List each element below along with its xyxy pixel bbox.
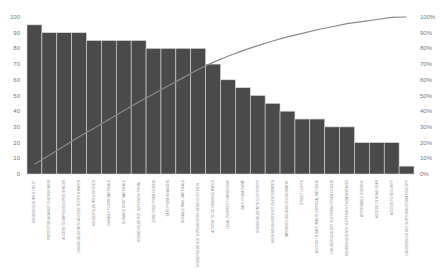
bar xyxy=(295,119,310,174)
y2-tick-label: 40% xyxy=(420,108,433,114)
x-tick-label: ACCESS TO IMPROVED OPEN SPACES xyxy=(62,180,66,240)
y2-tick-label: 10% xyxy=(420,155,433,161)
x-tick-label: ACCESS TO ROAD NEAR xyxy=(375,179,379,218)
x-tick-label: PROTECTION AGAINST CHICKUN WIND xyxy=(47,179,51,240)
x-tick-label: DURABLE FLOOR MATERIALS xyxy=(107,180,111,226)
bar xyxy=(27,25,42,174)
x-tick-label: ACCESS TO SECURITY xyxy=(390,179,394,215)
bar xyxy=(310,119,325,174)
bar xyxy=(131,41,146,174)
y2-tick-label: 70% xyxy=(420,61,433,67)
x-tick-label: HOUSEHOLDS WITH ELECTRICITY xyxy=(256,179,260,233)
y2-tick-label: 50% xyxy=(420,93,433,99)
x-tick-label: HOUSEHOLDS WITH KITCHEN xyxy=(92,179,96,226)
x-tick-label: DURABLE ROOF MATERIALS xyxy=(122,180,126,224)
x-tick-label: DURABLE WALL MATERIALS xyxy=(181,180,185,223)
x-tick-label: HOUSEHOLDS NOT EXPERIENCING BEING EVICTE… xyxy=(196,180,200,267)
y-tick-label: 70 xyxy=(13,61,20,67)
x-tick-label: HOUSEHOLDS NOT SUFFERING FROM DISEASES xyxy=(345,180,349,256)
x-tick-label: AFFORDABLE HOUSING xyxy=(360,179,364,217)
y2-tick-label: 100% xyxy=(420,14,436,20)
x-tick-label: SAFE FROM CRIME xyxy=(241,180,245,210)
pareto-chart: 0102030405060708090100 0%10%20%30%40%50%… xyxy=(0,0,445,271)
y-tick-label: 40 xyxy=(13,108,20,114)
y-axis-right: 0%10%20%30%40%50%60%70%80%90%100% xyxy=(420,14,436,177)
bar xyxy=(340,127,355,174)
bar xyxy=(235,88,250,174)
y-tick-label: 90 xyxy=(13,30,20,36)
y2-tick-label: 30% xyxy=(420,124,433,130)
x-axis-labels: HOUSEHOLDS WITH TOILETPROTECTION AGAINST… xyxy=(32,179,408,267)
bar xyxy=(354,143,369,174)
x-tick-label: ZONE FREE FROM FLOODS xyxy=(152,180,156,223)
y-tick-label: 30 xyxy=(13,124,20,130)
y2-tick-label: 80% xyxy=(420,45,433,51)
x-tick-label: ACCESS TO OIL DRINKING WATER xyxy=(211,179,215,232)
bar xyxy=(101,41,116,174)
x-tick-label: HOUSEHOLDS NOT SUFFERING FROM FLOODS xyxy=(330,180,334,253)
bar xyxy=(87,41,102,174)
bar xyxy=(325,127,340,174)
bar xyxy=(206,64,221,174)
y2-tick-label: 60% xyxy=(420,77,433,83)
y-tick-label: 50 xyxy=(13,93,20,99)
bar xyxy=(161,48,176,174)
x-tick-label: HOUSEHOLDS NOT SUFFERING FROM POVERTY xyxy=(405,179,409,255)
x-tick-label: ACCESS TO SAFE WASTE DISPOSAL METHODS xyxy=(315,180,319,253)
y-tick-label: 100 xyxy=(10,14,21,20)
x-tick-label: HOUSEHOLDS WITH ACCESS TO PIPED WATER xyxy=(77,179,81,253)
y-tick-label: 60 xyxy=(13,77,20,83)
bar xyxy=(57,33,72,174)
bar xyxy=(369,143,384,174)
y-tick-label: 10 xyxy=(13,155,20,161)
y-tick-label: 20 xyxy=(13,140,20,146)
bar xyxy=(221,80,236,174)
bar xyxy=(176,48,191,174)
y-axis-left: 0102030405060708090100 xyxy=(10,14,21,177)
bar xyxy=(265,103,280,174)
bar xyxy=(399,166,414,174)
bar xyxy=(250,96,265,175)
bar xyxy=(42,33,57,174)
bar-series xyxy=(27,25,414,174)
x-tick-label: IMPROVED HOUSING ENVIRONMENT xyxy=(285,180,289,237)
x-tick-label: SAFE FROM INVASIONS xyxy=(166,180,170,217)
y2-tick-label: 0% xyxy=(420,171,429,177)
y2-tick-label: 20% xyxy=(420,140,433,146)
x-tick-label: LEGAL PROPERTY OWNERSHIP xyxy=(226,180,230,229)
y2-tick-label: 90% xyxy=(420,30,433,36)
bar xyxy=(72,33,87,174)
x-tick-label: HOUSEHOLDS NOT SUFFERING FROM... xyxy=(137,180,141,242)
bar xyxy=(384,143,399,174)
y-tick-label: 80 xyxy=(13,45,20,51)
x-tick-label: HOUSEHOLDS WITH TOILET xyxy=(32,180,36,223)
x-tick-label: NEIGHBOURHOOD NOT OVERCROWDED xyxy=(271,179,275,243)
x-tick-label: STREET LIGHTS xyxy=(300,180,304,205)
y-tick-label: 0 xyxy=(17,171,21,177)
bar xyxy=(146,48,161,174)
bar xyxy=(280,111,295,174)
